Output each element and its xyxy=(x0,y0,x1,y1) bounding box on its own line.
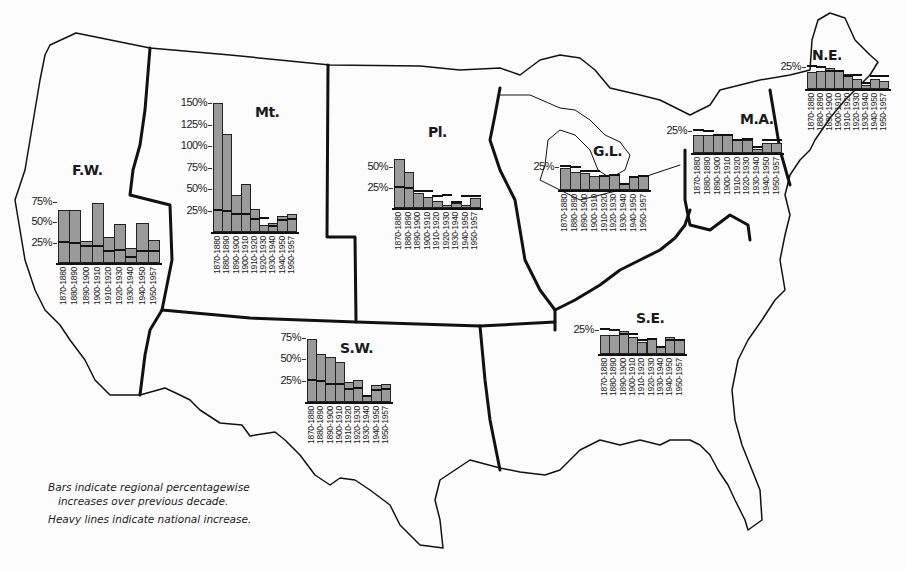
x-axis-baseline xyxy=(805,89,891,91)
national-line xyxy=(852,74,862,76)
legend: Bars indicate regional percentagewise in… xyxy=(48,480,251,526)
mt-sw-boundary xyxy=(162,310,356,322)
x-tick-label: 1910-1920 xyxy=(104,267,113,305)
x-tick-label: 1950-1957 xyxy=(149,267,158,305)
y-tick-mark xyxy=(208,189,212,190)
legend-line-1: Bars indicate regional percentagewise xyxy=(48,480,251,494)
x-tick-label: 1890-1900 xyxy=(713,157,722,195)
x-tick-label: 1870-1880 xyxy=(59,267,68,305)
x-axis-baseline xyxy=(305,402,393,404)
national-line xyxy=(674,339,684,341)
y-tick-mark xyxy=(595,330,599,331)
x-tick-label: 1900-1910 xyxy=(723,157,732,195)
x-tick-label: 1880-1890 xyxy=(316,406,325,444)
y-tick-mark xyxy=(53,243,57,244)
sw-se-boundary xyxy=(480,326,500,470)
y-tick-label: 25% xyxy=(523,161,554,172)
bar-gl-1950-1957 xyxy=(638,175,649,190)
x-tick-label: 1950-1957 xyxy=(879,93,888,131)
x-axis-baseline xyxy=(558,190,651,192)
x-axis-baseline xyxy=(392,208,483,210)
bar-se-1950-1957 xyxy=(674,340,684,354)
national-line xyxy=(628,333,638,335)
y-tick-mark xyxy=(802,67,806,68)
x-axis-baseline xyxy=(598,354,687,356)
bar-mt-1950-1957 xyxy=(287,214,297,232)
x-tick-label: 1890-1900 xyxy=(82,267,91,305)
pl-sw-boundary xyxy=(356,322,555,326)
y-tick-mark xyxy=(389,188,393,189)
national-line xyxy=(834,70,844,72)
x-tick-label: 1930-1940 xyxy=(126,267,135,305)
y-tick-mark xyxy=(208,146,212,147)
y-tick-mark xyxy=(688,131,692,132)
region-label-pl: Pl. xyxy=(428,124,447,140)
y-tick-mark xyxy=(53,222,57,223)
region-label-fw: F.W. xyxy=(72,162,102,178)
y-tick-label: 25% xyxy=(562,324,594,335)
y-tick-label: 50% xyxy=(268,353,301,364)
national-line xyxy=(148,250,160,252)
y-tick-label: 25% xyxy=(20,237,52,248)
national-line xyxy=(404,187,415,189)
y-tick-mark xyxy=(53,202,57,203)
x-axis-baseline xyxy=(56,263,162,265)
legend-line-3: Heavy lines indicate national increase. xyxy=(48,512,251,526)
national-line xyxy=(703,130,714,132)
y-tick-mark xyxy=(208,168,212,169)
y-tick-mark xyxy=(302,381,306,382)
x-tick-label: 1910-1920 xyxy=(432,212,441,250)
y-tick-mark xyxy=(555,167,559,168)
national-line xyxy=(879,75,889,77)
x-tick-label: 1940-1950 xyxy=(629,194,638,232)
x-tick-label: 1880-1890 xyxy=(70,267,79,305)
y-tick-mark xyxy=(208,103,212,104)
x-tick-label: 1880-1890 xyxy=(703,157,712,195)
national-line xyxy=(442,194,453,196)
y-tick-mark xyxy=(302,338,306,339)
bar-ne-1950-1957 xyxy=(879,81,889,89)
national-line xyxy=(647,338,657,340)
bar-pl-1950-1957 xyxy=(470,198,481,208)
y-tick-label: 25% xyxy=(655,125,687,136)
y-tick-label: 50% xyxy=(168,183,207,194)
region-label-se: S.E. xyxy=(636,310,664,326)
x-tick-label: 1950-1957 xyxy=(675,358,684,396)
x-tick-label: 1900-1910 xyxy=(93,267,102,305)
region-label-ne: N.E. xyxy=(812,47,842,63)
x-tick-label: 1900-1910 xyxy=(590,194,599,232)
mt-pl-boundary xyxy=(327,65,356,320)
x-tick-label: 1950-1957 xyxy=(287,236,296,274)
national-line xyxy=(287,218,297,220)
x-tick-label: 1880-1890 xyxy=(570,194,579,232)
national-line xyxy=(259,217,269,219)
y-tick-label: 25% xyxy=(358,182,388,193)
x-tick-label: 1930-1940 xyxy=(268,236,277,274)
national-line xyxy=(353,387,363,389)
national-line xyxy=(589,170,600,172)
national-line xyxy=(722,134,733,136)
x-tick-label: 1950-1957 xyxy=(381,406,390,444)
x-axis-baseline xyxy=(691,153,784,155)
region-label-ma: M.A. xyxy=(740,111,774,127)
y-tick-label: 75% xyxy=(20,196,52,207)
region-label-sw: S.W. xyxy=(340,340,373,356)
x-tick-label: 1890-1900 xyxy=(580,194,589,232)
x-tick-label: 1930-1940 xyxy=(752,157,761,195)
y-tick-label: 125% xyxy=(168,119,207,130)
x-tick-label: 1950-1957 xyxy=(639,194,648,232)
y-tick-label: 150% xyxy=(168,97,207,108)
y-tick-label: 100% xyxy=(168,140,207,151)
y-tick-label: 25% xyxy=(168,205,207,216)
y-tick-label: 50% xyxy=(358,161,388,172)
x-tick-label: 1940-1950 xyxy=(762,157,771,195)
fw-mt-boundary xyxy=(130,48,172,395)
x-tick-label: 1930-1940 xyxy=(362,406,371,444)
x-tick-label: 1940-1950 xyxy=(665,358,674,396)
y-tick-label: 25% xyxy=(770,61,801,72)
y-tick-mark xyxy=(389,167,393,168)
pl-gl-boundary xyxy=(490,88,555,330)
x-tick-label: 1920-1930 xyxy=(115,267,124,305)
y-tick-label: 25% xyxy=(268,375,301,386)
national-line xyxy=(570,166,581,168)
